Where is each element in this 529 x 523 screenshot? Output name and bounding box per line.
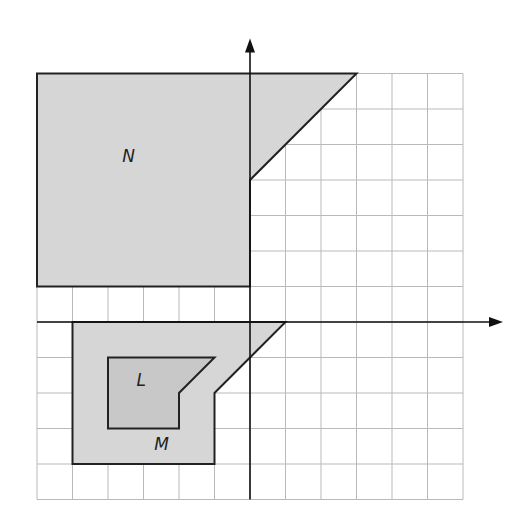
shape-label-N: N bbox=[122, 146, 135, 166]
shapes bbox=[37, 74, 357, 465]
x-axis-arrow-icon bbox=[489, 317, 503, 327]
shape-label-L: L bbox=[136, 370, 145, 390]
coordinate-plane: NML bbox=[0, 0, 529, 523]
y-axis-arrow-icon bbox=[245, 39, 255, 53]
shape-label-M: M bbox=[154, 434, 169, 454]
